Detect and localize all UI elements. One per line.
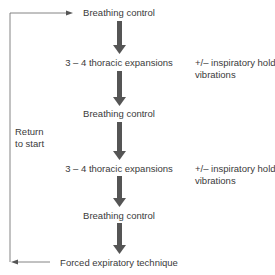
down-arrow-icon — [113, 71, 126, 106]
down-arrow-icon — [113, 176, 126, 207]
step-breathing-control-3: Breathing control — [83, 210, 155, 221]
down-arrow-icon — [113, 21, 126, 54]
note-inspiratory-hold-2: +/– inspiratory hold — [195, 163, 275, 174]
down-arrow-icon — [113, 223, 126, 254]
note-inspiratory-hold-1: +/– inspiratory hold — [195, 57, 275, 68]
arrowhead-left-icon — [11, 260, 18, 265]
arrowhead-right-icon — [66, 11, 73, 16]
return-label-line1: Return — [15, 126, 44, 137]
step-breathing-control-2: Breathing control — [83, 108, 155, 119]
step-breathing-control-1: Breathing control — [83, 7, 155, 18]
note-vibrations-1: vibrations — [195, 69, 236, 80]
step-thoracic-expansions-2: 3 – 4 thoracic expansions — [65, 163, 173, 174]
note-vibrations-2: vibrations — [195, 175, 236, 186]
step-forced-expiratory-technique: Forced expiratory technique — [60, 257, 178, 268]
return-label-line2: to start — [15, 138, 44, 149]
down-arrow-icon — [113, 122, 126, 160]
step-thoracic-expansions-1: 3 – 4 thoracic expansions — [65, 57, 173, 68]
